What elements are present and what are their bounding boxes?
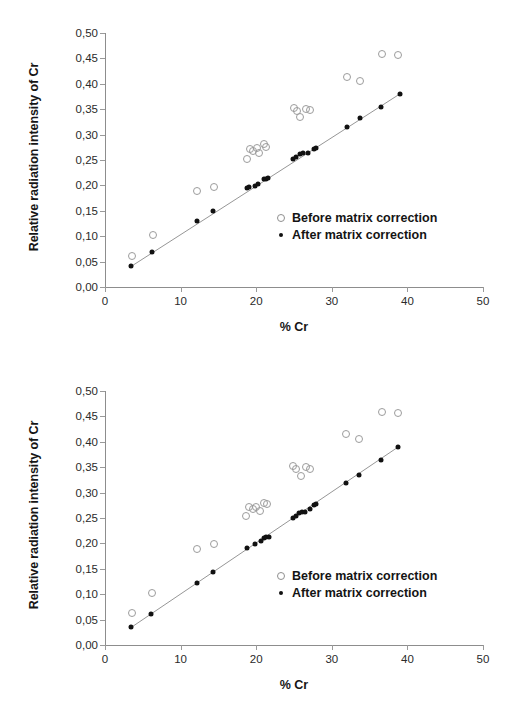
- y-tick-label: 0,25: [76, 512, 98, 524]
- x-tick: [483, 645, 484, 650]
- y-tick-label: 0,30: [76, 129, 98, 141]
- data-point-before: [242, 512, 250, 520]
- chart-panel-bottom: Relative radiation intensity of Cr % Cr …: [0, 358, 516, 716]
- legend-label-after: After matrix correction: [292, 227, 427, 244]
- data-point-before: [148, 589, 156, 597]
- y-tick-label: 0,35: [76, 461, 98, 473]
- data-point-before: [306, 106, 314, 114]
- data-point-after: [211, 208, 216, 213]
- data-point-after: [357, 116, 362, 121]
- legend-item-after: After matrix correction: [275, 227, 437, 244]
- legend-item-before: Before matrix correction: [275, 210, 437, 227]
- y-tick-label: 0,05: [76, 614, 98, 626]
- data-point-before: [193, 187, 201, 195]
- y-tick-label: 0,50: [76, 385, 98, 397]
- x-tick: [256, 645, 257, 650]
- data-point-after: [149, 250, 154, 255]
- data-point-after: [195, 581, 200, 586]
- data-point-before: [262, 143, 270, 151]
- data-point-before: [342, 430, 350, 438]
- data-point-after: [195, 218, 200, 223]
- y-tick: [100, 109, 105, 110]
- legend: Before matrix correctionAfter matrix cor…: [275, 568, 437, 602]
- plot-area: 0,000,050,100,150,200,250,300,350,400,45…: [105, 33, 483, 287]
- data-point-after: [313, 145, 318, 150]
- data-point-after: [344, 124, 349, 129]
- y-tick: [100, 236, 105, 237]
- y-tick-label: 0,00: [76, 639, 98, 651]
- data-point-after: [396, 444, 401, 449]
- x-tick-label: 10: [174, 653, 187, 665]
- data-point-after: [247, 185, 252, 190]
- y-tick-label: 0,45: [76, 52, 98, 64]
- data-point-before: [297, 472, 305, 480]
- x-tick: [105, 287, 106, 292]
- x-tick-label: 20: [250, 653, 263, 665]
- x-tick: [105, 645, 106, 650]
- x-tick-label: 40: [401, 653, 414, 665]
- plot-wrapper-top: Relative radiation intensity of Cr % Cr …: [0, 0, 516, 358]
- x-tick-label: 10: [174, 295, 187, 307]
- legend-marker-after-icon: [275, 230, 286, 241]
- x-tick: [483, 287, 484, 292]
- x-tick: [407, 287, 408, 292]
- y-tick-label: 0,40: [76, 78, 98, 90]
- data-point-before: [378, 408, 386, 416]
- legend-item-after: After matrix correction: [275, 585, 437, 602]
- plot-area: 0,000,050,100,150,200,250,300,350,400,45…: [105, 391, 483, 645]
- data-point-before: [263, 500, 271, 508]
- x-axis-title: % Cr: [105, 678, 483, 692]
- data-point-before: [149, 231, 157, 239]
- y-axis-title: Relative radiation intensity of Cr: [27, 385, 41, 645]
- data-point-before: [210, 540, 218, 548]
- y-tick: [100, 33, 105, 34]
- legend-label-before: Before matrix correction: [292, 210, 437, 227]
- y-tick: [100, 391, 105, 392]
- data-point-after: [266, 176, 271, 181]
- data-point-after: [378, 104, 383, 109]
- data-point-before: [378, 50, 386, 58]
- data-point-after: [344, 481, 349, 486]
- data-point-before: [355, 435, 363, 443]
- y-tick: [100, 416, 105, 417]
- legend-marker-after-icon: [275, 588, 286, 599]
- y-tick-label: 0,25: [76, 154, 98, 166]
- data-point-after: [129, 625, 134, 630]
- data-point-before: [306, 465, 314, 473]
- x-tick-label: 0: [102, 653, 108, 665]
- plot-wrapper-bottom: Relative radiation intensity of Cr % Cr …: [0, 358, 516, 716]
- y-tick-label: 0,45: [76, 410, 98, 422]
- y-tick-label: 0,40: [76, 436, 98, 448]
- y-tick-label: 0,50: [76, 27, 98, 39]
- x-axis-title: % Cr: [105, 320, 483, 334]
- y-axis-title: Relative radiation intensity of Cr: [27, 27, 41, 287]
- y-tick: [100, 262, 105, 263]
- y-tick: [100, 442, 105, 443]
- x-tick: [332, 287, 333, 292]
- x-tick-label: 20: [250, 295, 263, 307]
- data-point-before: [394, 51, 402, 59]
- data-point-after: [149, 612, 154, 617]
- y-tick: [100, 160, 105, 161]
- data-point-before: [394, 409, 402, 417]
- y-tick: [100, 620, 105, 621]
- y-tick-label: 0,10: [76, 230, 98, 242]
- y-tick-label: 0,20: [76, 179, 98, 191]
- data-point-before: [128, 609, 136, 617]
- y-tick: [100, 467, 105, 468]
- data-point-after: [378, 457, 383, 462]
- y-tick: [100, 185, 105, 186]
- legend-label-before: Before matrix correction: [292, 568, 437, 585]
- data-point-after: [211, 569, 216, 574]
- y-tick: [100, 84, 105, 85]
- x-tick: [256, 287, 257, 292]
- legend-marker-before-icon: [275, 571, 286, 582]
- y-tick-label: 0,20: [76, 537, 98, 549]
- y-tick: [100, 569, 105, 570]
- y-tick: [100, 58, 105, 59]
- y-tick: [100, 135, 105, 136]
- legend-marker-before-icon: [275, 213, 286, 224]
- x-tick: [181, 287, 182, 292]
- y-tick-label: 0,00: [76, 281, 98, 293]
- x-tick-label: 30: [325, 295, 338, 307]
